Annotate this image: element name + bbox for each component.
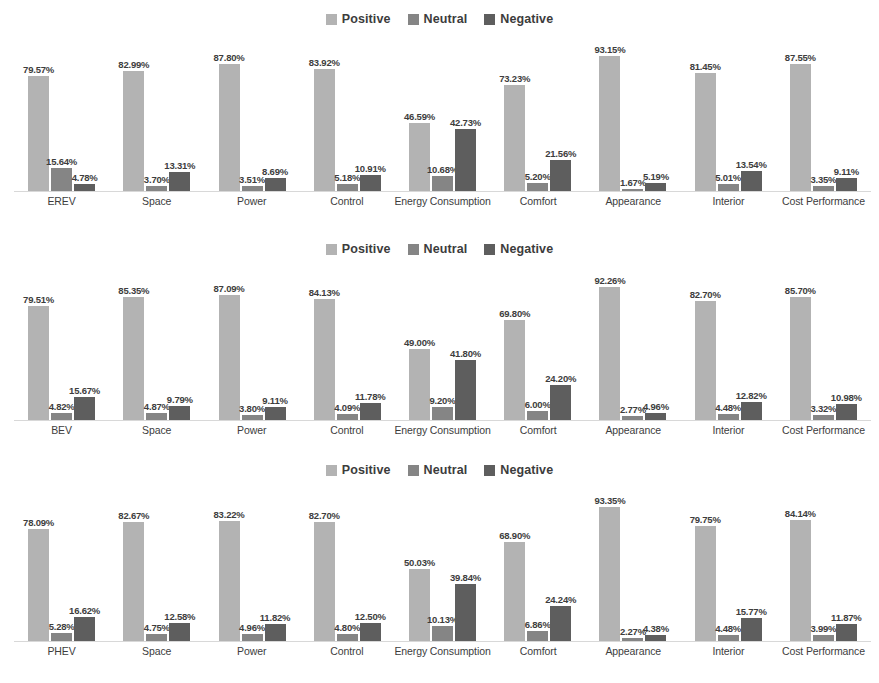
bar-positive[interactable]: 81.45% — [695, 46, 716, 191]
bar-value-label: 4.38% — [643, 623, 669, 634]
bar-negative[interactable]: 42.73% — [455, 46, 476, 191]
bar-negative[interactable]: 5.19% — [645, 46, 666, 191]
bar-neutral[interactable]: 5.20% — [527, 46, 548, 191]
bar-positive[interactable]: 68.90% — [504, 497, 525, 641]
bar-positive[interactable]: 83.92% — [314, 46, 335, 191]
x-axis-tick-label: Control — [299, 645, 394, 657]
bar-positive[interactable]: 82.99% — [123, 46, 144, 191]
bar-value-label: 83.22% — [214, 509, 245, 520]
bar-negative[interactable]: 12.58% — [169, 497, 190, 641]
bar-positive[interactable]: 78.09% — [28, 497, 49, 641]
bar-value-label: 92.26% — [594, 275, 625, 286]
bar-value-label: 10.91% — [355, 163, 386, 174]
bar-rect: 11.82% — [265, 624, 286, 641]
legend-item-neutral[interactable]: Neutral — [408, 13, 468, 26]
bar-group: 84.13%4.09%11.78% — [300, 276, 395, 420]
bar-rect: 6.00% — [527, 411, 548, 420]
bar-neutral[interactable]: 10.13% — [432, 497, 453, 641]
bar-positive[interactable]: 82.70% — [695, 276, 716, 420]
bar-positive[interactable]: 84.13% — [314, 276, 335, 420]
bar-value-label: 11.87% — [831, 612, 862, 623]
bar-rect: 12.58% — [169, 623, 190, 641]
bar-positive[interactable]: 87.09% — [219, 276, 240, 420]
bar-neutral[interactable]: 6.86% — [527, 497, 548, 641]
bar-positive[interactable]: 79.75% — [695, 497, 716, 641]
bar-negative[interactable]: 10.91% — [360, 46, 381, 191]
bar-negative[interactable]: 11.78% — [360, 276, 381, 420]
bar-negative[interactable]: 13.31% — [169, 46, 190, 191]
bar-negative[interactable]: 12.50% — [360, 497, 381, 641]
bar-neutral[interactable]: 4.82% — [51, 276, 72, 420]
bar-negative[interactable]: 4.38% — [645, 497, 666, 641]
bar-negative[interactable]: 24.24% — [550, 497, 571, 641]
bar-negative[interactable]: 9.11% — [836, 46, 857, 191]
legend-item-negative[interactable]: Negative — [484, 464, 553, 477]
bar-negative[interactable]: 9.79% — [169, 276, 190, 420]
bar-neutral[interactable]: 3.80% — [242, 276, 263, 420]
bar-negative[interactable]: 41.80% — [455, 276, 476, 420]
bar-negative[interactable]: 13.54% — [741, 46, 762, 191]
legend-item-positive[interactable]: Positive — [326, 13, 391, 26]
bar-negative[interactable]: 16.62% — [74, 497, 95, 641]
bar-neutral[interactable]: 2.27% — [622, 497, 643, 641]
legend-item-negative[interactable]: Negative — [484, 13, 553, 26]
bar-negative[interactable]: 15.67% — [74, 276, 95, 420]
bar-neutral[interactable]: 3.51% — [242, 46, 263, 191]
bar-neutral[interactable]: 6.00% — [527, 276, 548, 420]
bar-neutral[interactable]: 5.28% — [51, 497, 72, 641]
bar-positive[interactable]: 49.00% — [409, 276, 430, 420]
bar-value-label: 24.20% — [545, 373, 576, 384]
legend-item-positive[interactable]: Positive — [326, 243, 391, 256]
bar-value-label: 16.62% — [69, 605, 100, 616]
legend-item-neutral[interactable]: Neutral — [408, 464, 468, 477]
bar-positive[interactable]: 93.35% — [599, 497, 620, 641]
bar-positive[interactable]: 79.51% — [28, 276, 49, 420]
bar-positive[interactable]: 82.67% — [123, 497, 144, 641]
bar-negative[interactable]: 4.96% — [645, 276, 666, 420]
bar-negative[interactable]: 11.87% — [836, 497, 857, 641]
bar-negative[interactable]: 10.98% — [836, 276, 857, 420]
bar-group: 87.09%3.80%9.11% — [204, 276, 299, 420]
bar-rect: 8.69% — [265, 178, 286, 191]
bar-neutral[interactable]: 15.64% — [51, 46, 72, 191]
bar-rect: 4.75% — [146, 634, 167, 641]
bar-positive[interactable]: 85.35% — [123, 276, 144, 420]
bar-positive[interactable]: 73.23% — [504, 46, 525, 191]
bar-positive[interactable]: 84.14% — [790, 497, 811, 641]
bar-positive[interactable]: 82.70% — [314, 497, 335, 641]
bar-negative[interactable]: 4.78% — [74, 46, 95, 191]
bar-rect: 46.59% — [409, 123, 430, 191]
bar-positive[interactable]: 79.57% — [28, 46, 49, 191]
bar-group: 93.35%2.27%4.38% — [585, 497, 680, 641]
bar-group: 87.80%3.51%8.69% — [204, 46, 299, 191]
bar-negative[interactable]: 15.77% — [741, 497, 762, 641]
bar-positive[interactable]: 85.70% — [790, 276, 811, 420]
bar-negative[interactable]: 9.11% — [265, 276, 286, 420]
x-axis-tick-label: Appearance — [586, 645, 681, 657]
legend-item-positive[interactable]: Positive — [326, 464, 391, 477]
bar-negative[interactable]: 8.69% — [265, 46, 286, 191]
legend-item-neutral[interactable]: Neutral — [408, 243, 468, 256]
bar-rect: 69.80% — [504, 320, 525, 421]
bar-positive[interactable]: 69.80% — [504, 276, 525, 420]
bar-value-label: 13.54% — [736, 159, 767, 170]
bar-neutral[interactable]: 4.87% — [146, 276, 167, 420]
bar-neutral[interactable]: 2.77% — [622, 276, 643, 420]
bar-neutral[interactable]: 1.67% — [622, 46, 643, 191]
bar-positive[interactable]: 87.80% — [219, 46, 240, 191]
bar-negative[interactable]: 11.82% — [265, 497, 286, 641]
bar-rect: 84.13% — [314, 299, 335, 420]
bar-positive[interactable]: 92.26% — [599, 276, 620, 420]
chart-legend: PositiveNeutralNegative — [0, 13, 879, 26]
bar-negative[interactable]: 39.84% — [455, 497, 476, 641]
bar-negative[interactable]: 24.20% — [550, 276, 571, 420]
bar-positive[interactable]: 83.22% — [219, 497, 240, 641]
bar-neutral[interactable]: 3.35% — [813, 46, 834, 191]
bar-positive[interactable]: 93.15% — [599, 46, 620, 191]
bar-negative[interactable]: 21.56% — [550, 46, 571, 191]
bar-group: 79.51%4.82%15.67% — [14, 276, 109, 420]
bar-negative[interactable]: 12.82% — [741, 276, 762, 420]
bar-neutral[interactable]: 4.48% — [718, 497, 739, 641]
legend-item-negative[interactable]: Negative — [484, 243, 553, 256]
bar-positive[interactable]: 87.55% — [790, 46, 811, 191]
